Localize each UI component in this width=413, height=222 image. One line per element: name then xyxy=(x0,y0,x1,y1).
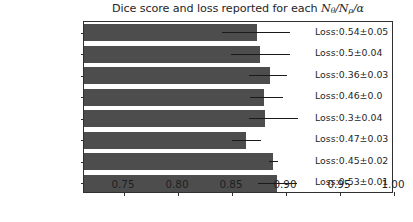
y-tick-mark xyxy=(81,162,85,163)
loss-annotation: Loss:0.47±0.03 xyxy=(315,134,388,144)
chart-title-variable-alpha: α xyxy=(357,2,364,15)
x-tick-mark xyxy=(124,192,125,196)
bar xyxy=(84,89,264,106)
loss-annotation: Loss:0.53±0.01 xyxy=(315,177,388,187)
chart-title: Dice score and loss reported for each Nθ… xyxy=(83,2,393,15)
loss-annotation: Loss:0.36±0.03 xyxy=(315,70,388,80)
error-bar xyxy=(231,54,290,55)
loss-annotation: Loss:0.3±0.04 xyxy=(315,113,382,123)
error-bar xyxy=(269,161,279,162)
x-tick-mark xyxy=(232,192,233,196)
loss-annotation: Loss:0.5±0.04 xyxy=(315,48,382,58)
x-tick-mark xyxy=(286,192,287,196)
y-tick-mark xyxy=(81,54,85,55)
bar xyxy=(84,67,270,84)
x-tick-mark xyxy=(394,192,395,196)
loss-annotation: Loss:0.54±0.05 xyxy=(315,27,388,37)
error-bar xyxy=(222,32,290,33)
y-tick-mark xyxy=(81,97,85,98)
x-tick-label: 0.75 xyxy=(111,178,134,190)
loss-annotation: Loss:0.46±0.0 xyxy=(315,91,382,101)
x-tick-label: 0.85 xyxy=(219,178,242,190)
error-bar xyxy=(250,97,282,98)
x-tick-mark xyxy=(340,192,341,196)
y-tick-mark xyxy=(81,140,85,141)
bar xyxy=(84,132,246,149)
y-tick-mark xyxy=(81,119,85,120)
error-bar xyxy=(232,140,261,141)
chart-title-variable-n-rho: Nρ xyxy=(339,2,353,15)
y-tick-mark xyxy=(81,76,85,77)
loss-annotation: Loss:0.45±0.02 xyxy=(315,156,388,166)
x-tick-label: 0.80 xyxy=(165,178,188,190)
x-tick-label: 1.00 xyxy=(381,178,404,190)
y-tick-mark xyxy=(81,33,85,34)
x-tick-label: 0.90 xyxy=(273,178,296,190)
x-tick-label: 0.95 xyxy=(327,178,350,190)
error-bar xyxy=(249,75,287,76)
error-bar xyxy=(249,118,298,119)
bar xyxy=(84,110,265,127)
y-tick-mark xyxy=(81,183,85,184)
bar xyxy=(84,153,273,170)
figure-canvas: Dice score and loss reported for each Nθ… xyxy=(0,0,413,222)
x-tick-mark xyxy=(178,192,179,196)
chart-title-prefix: Dice score and loss reported for each xyxy=(112,2,321,15)
chart-title-variable-n-theta: Nθ xyxy=(321,2,335,15)
